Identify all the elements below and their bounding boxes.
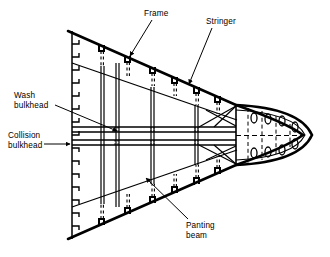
diagram-canvas: Frame Stringer Wash bulkhead Collision b… (0, 0, 330, 257)
panting-beam-fasteners (115, 127, 198, 145)
collision-bulkhead-label-line1: Collision (8, 131, 41, 140)
aft-cut-edge-group (72, 31, 79, 239)
stringer-leader-line (189, 28, 212, 84)
collision-bulkhead (116, 63, 119, 207)
leader-lines-group (44, 20, 212, 219)
wash-bulkhead-label-line1: Wash (14, 91, 36, 100)
transverse-web-frame (195, 105, 198, 165)
frame-bracket (99, 204, 104, 226)
bow-structure-diagram: Frame Stringer Wash bulkhead Collision b… (0, 0, 330, 257)
transverse-web-frame (151, 87, 154, 184)
stringer-section (251, 113, 257, 123)
bulkheads-group (101, 63, 236, 207)
frame-label: Frame (144, 9, 169, 18)
frame-bracket (99, 44, 104, 66)
wash-bulkhead-label-line2: bulkhead (14, 101, 49, 110)
panting-beam-label-line1: Panting (186, 221, 215, 230)
collision-bulkhead-label-line2: bulkhead (8, 141, 43, 150)
aft-frame-ticks (72, 40, 79, 230)
wash-bulkhead (101, 66, 104, 204)
breast-hook (206, 146, 236, 160)
frame-leader-line (130, 20, 152, 56)
stringer-label: Stringer (206, 17, 236, 26)
panting-beam-leader-line (146, 178, 188, 219)
labels-group: Frame Stringer Wash bulkhead Collision b… (8, 9, 236, 240)
breast-hooks-group (199, 106, 236, 164)
panting-beam-label-line2: beam (186, 231, 207, 240)
stringer-section (251, 148, 257, 158)
